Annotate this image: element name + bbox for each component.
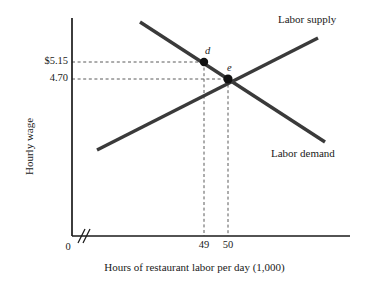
x-tick-label-49: 49 — [194, 240, 214, 251]
labor-market-figure: $5.15 4.70 0 49 50 d e Labor supply Labo… — [0, 0, 389, 285]
guide-lines — [72, 62, 228, 236]
point-label-e: e — [227, 63, 232, 74]
x-tick-label-origin: 0 — [60, 242, 76, 253]
x-axis-title: Hours of restaurant labor per day (1,000… — [0, 262, 389, 273]
y-axis-title: Hourly wage — [24, 118, 35, 175]
y-tick-label-470: 4.70 — [16, 73, 68, 84]
x-tick-label-50: 50 — [218, 240, 238, 251]
labor-demand-label: Labor demand — [271, 148, 335, 159]
y-tick-label-515: $5.15 — [16, 56, 68, 67]
labor-supply-label: Labor supply — [278, 14, 336, 25]
point-label-d: d — [205, 46, 210, 57]
labor-demand-curve — [140, 22, 325, 142]
data-point-e — [223, 74, 232, 83]
data-point-d — [200, 58, 208, 66]
